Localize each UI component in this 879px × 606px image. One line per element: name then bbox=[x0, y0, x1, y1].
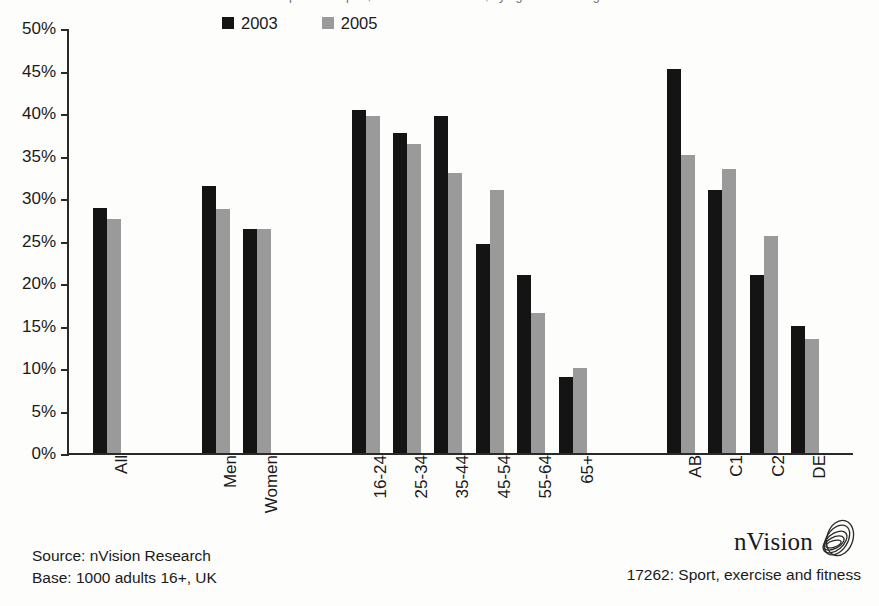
bar bbox=[805, 339, 819, 453]
x-axis-label: 35-44 bbox=[453, 455, 473, 498]
x-axis-label: C2 bbox=[769, 455, 789, 477]
bar bbox=[393, 133, 407, 453]
x-axis-label: 45-54 bbox=[495, 455, 515, 498]
brand-name: nVision bbox=[734, 528, 813, 556]
y-axis-tick-label: 30% bbox=[22, 189, 56, 209]
y-axis-tick-mark bbox=[61, 72, 69, 74]
x-axis-label: DE bbox=[810, 455, 830, 479]
bar bbox=[708, 190, 722, 453]
chart-title-strip: Participation in sport, exercise and fit… bbox=[0, 0, 879, 13]
bar bbox=[667, 69, 681, 453]
bar bbox=[681, 155, 695, 453]
y-axis-tick-label: 10% bbox=[22, 359, 56, 379]
bar bbox=[764, 236, 778, 453]
chart-title: Participation in sport, exercise and fit… bbox=[0, 0, 879, 3]
bar bbox=[202, 186, 216, 453]
x-axis-label: 65+ bbox=[578, 455, 598, 484]
x-axis-label: 16-24 bbox=[371, 455, 391, 498]
y-axis-tick-mark bbox=[61, 29, 69, 31]
bar bbox=[476, 244, 490, 453]
x-axis-label: All bbox=[112, 455, 132, 474]
bar bbox=[490, 190, 504, 454]
y-axis-tick-label: 50% bbox=[22, 19, 56, 39]
y-axis-tick-mark bbox=[61, 327, 69, 329]
bar bbox=[366, 116, 380, 453]
y-axis-tick-label: 15% bbox=[22, 317, 56, 337]
y-axis-tick-mark bbox=[61, 412, 69, 414]
y-axis-tick-label: 5% bbox=[31, 402, 56, 422]
bar bbox=[407, 144, 421, 453]
base-line: Base: 1000 adults 16+, UK bbox=[32, 567, 217, 589]
bar bbox=[531, 313, 545, 453]
bar bbox=[257, 229, 271, 453]
brand-row: nVision bbox=[541, 519, 861, 565]
bar bbox=[434, 116, 448, 453]
x-axis-label: AB bbox=[686, 455, 706, 478]
y-axis-tick-mark bbox=[61, 114, 69, 116]
legend-swatch bbox=[222, 17, 234, 29]
y-axis-tick-mark bbox=[61, 369, 69, 371]
y-axis-tick-label: 40% bbox=[22, 104, 56, 124]
bar bbox=[107, 219, 121, 453]
x-axis-label: Men bbox=[221, 455, 241, 488]
x-axis-label: C1 bbox=[727, 455, 747, 477]
bar bbox=[93, 208, 107, 453]
bar bbox=[352, 110, 366, 453]
x-axis-label: 25-34 bbox=[412, 455, 432, 498]
bar bbox=[448, 173, 462, 454]
nvision-logo-icon bbox=[815, 517, 861, 567]
brand-caption: 17262: Sport, exercise and fitness bbox=[541, 566, 861, 584]
bar bbox=[750, 275, 764, 453]
x-axis-label: Women bbox=[262, 455, 282, 513]
bar bbox=[517, 275, 531, 453]
chart-figure: Participation in sport, exercise and fit… bbox=[0, 0, 879, 606]
y-axis-tick-mark bbox=[61, 199, 69, 201]
bar bbox=[216, 209, 230, 453]
y-axis-tick-label: 0% bbox=[31, 444, 56, 464]
y-axis-tick-label: 45% bbox=[22, 62, 56, 82]
y-axis-tick-mark bbox=[61, 157, 69, 159]
y-axis-tick-label: 25% bbox=[22, 232, 56, 252]
bar bbox=[243, 229, 257, 453]
bar bbox=[722, 169, 736, 453]
y-axis-tick-mark bbox=[61, 242, 69, 244]
bar-series-container bbox=[69, 30, 853, 453]
x-axis-label: 55-64 bbox=[536, 455, 556, 498]
source-line: Source: nVision Research bbox=[32, 545, 217, 567]
bar bbox=[573, 368, 587, 453]
brand-block: nVision 17262: Sport, exercise and fitne… bbox=[541, 519, 861, 584]
source-block: Source: nVision Research Base: 1000 adul… bbox=[32, 545, 217, 589]
bar bbox=[791, 326, 805, 453]
bar bbox=[559, 377, 573, 453]
y-axis-tick-mark bbox=[61, 284, 69, 286]
plot-area: 50%45%40%35%30%25%20%15%10%5%0% bbox=[67, 30, 853, 455]
y-axis-tick-label: 35% bbox=[22, 147, 56, 167]
legend-swatch bbox=[322, 17, 334, 29]
y-axis-tick-label: 20% bbox=[22, 274, 56, 294]
